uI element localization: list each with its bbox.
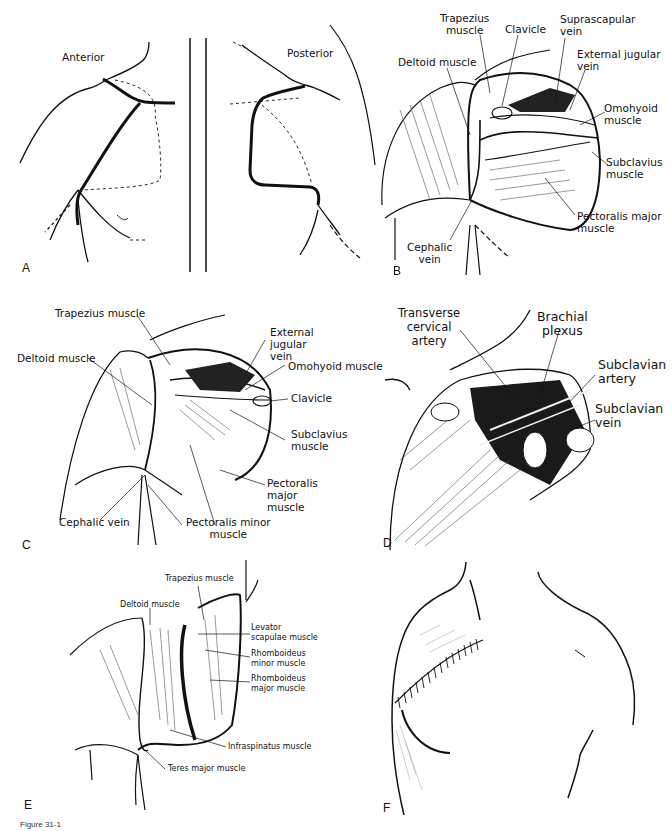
label-b-external-jugular: External jugular vein [577,48,660,72]
label-c-trapezius: Trapezius muscle [55,307,145,319]
label-d-subclavian-vein: Subclavian vein [595,402,663,430]
label-b-deltoid: Deltoid muscle [398,56,476,68]
figure-caption: Figure 31-1 [20,820,61,829]
panel-d: Transverse cervical artery Brachial plex… [330,280,672,550]
label-e-deltoid: Deltoid muscle [120,600,180,610]
panel-letter-a: A [22,261,30,275]
panel-e: Trapezius muscle Deltoid muscle Levator … [0,540,340,820]
label-c-pectoralis-minor: Pectoralis minor muscle [186,516,271,540]
panel-b-drawing [330,0,672,285]
label-b-suprascapular-vein: Suprascapular vein [560,13,635,37]
label-e-rhomboideus-minor: Rhomboideus minor muscle [251,649,306,669]
label-e-teres-major: Teres major muscle [168,764,245,774]
panel-f: F [330,540,672,831]
label-anterior: Anterior [62,51,104,63]
panel-f-drawing [330,540,672,831]
label-d-brachial-plexus: Brachial plexus [537,310,588,338]
panel-letter-e: E [24,798,32,812]
label-c-deltoid: Deltoid muscle [17,352,95,364]
label-b-omohyoid: Omohyoid muscle [604,102,658,126]
label-d-transverse-cervical-artery: Transverse cervical artery [398,306,460,348]
panel-letter-f: F [383,801,390,815]
panel-a-drawing [0,0,340,275]
label-b-cephalic-vein: Cephalic vein [407,241,452,265]
label-e-infraspinatus: Infraspinatus muscle [228,742,311,752]
label-b-subclavius: Subclavius muscle [606,156,662,180]
panel-c: Trapezius muscle Deltoid muscle External… [0,280,340,550]
label-b-pectoralis-major: Pectoralis major muscle [577,210,661,234]
label-posterior: Posterior [287,47,333,59]
label-b-clavicle: Clavicle [505,23,546,35]
label-e-levator-scapulae: Levator scapulae muscle [251,623,318,643]
label-d-subclavian-artery: Subclavian artery [598,358,666,386]
panel-letter-b: B [393,264,401,278]
label-b-trapezius: Trapezius muscle [440,12,489,36]
panel-b: Trapezius muscle Clavicle Suprascapular … [330,0,672,285]
label-e-trapezius: Trapezius muscle [165,574,234,584]
label-e-rhomboideus-major: Rhomboideus major muscle [251,674,306,694]
label-c-cephalic-vein: Cephalic vein [59,516,130,528]
panel-a: Anterior Posterior A [0,0,340,275]
label-c-clavicle: Clavicle [291,392,332,404]
